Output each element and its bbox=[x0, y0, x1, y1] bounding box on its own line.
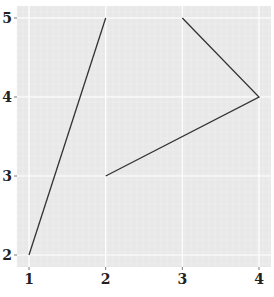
x-tick-label: 2 bbox=[101, 271, 111, 287]
x-tick-label: 4 bbox=[254, 271, 264, 287]
x-tick-label: 1 bbox=[24, 271, 34, 287]
y-tick-label: 2 bbox=[2, 247, 12, 263]
line-chart: 1234 2345 bbox=[0, 0, 274, 297]
y-tick-label: 4 bbox=[2, 89, 12, 105]
x-tick-label: 3 bbox=[177, 271, 187, 287]
y-tick-label: 5 bbox=[2, 10, 12, 26]
y-tick-label: 3 bbox=[2, 168, 12, 184]
y-axis-ticks: 2345 bbox=[2, 10, 17, 263]
x-axis-ticks: 1234 bbox=[24, 267, 264, 287]
